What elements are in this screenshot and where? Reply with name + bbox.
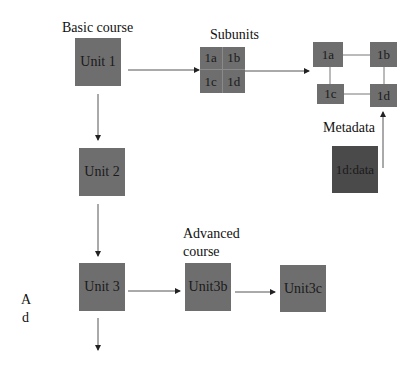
grid-1c-node[interactable]: 1c — [317, 84, 344, 104]
unit1-node[interactable]: Unit 1 — [75, 38, 121, 86]
grid-1d-node[interactable]: 1d — [370, 84, 397, 107]
unit3c-node[interactable]: Unit3c — [280, 265, 326, 312]
subunit-1d: 1d — [223, 70, 246, 93]
subunits-node[interactable]: 1a 1b 1c 1d — [200, 47, 245, 93]
subunits-label: Subunits — [210, 27, 259, 43]
advanced-course-label-line1: Advanced — [183, 226, 240, 242]
side-label-a: A — [21, 292, 31, 308]
subunit-1b: 1b — [223, 47, 246, 70]
advanced-course-label-line2: course — [183, 244, 220, 260]
metadata-1d-node[interactable]: 1d:data — [332, 146, 378, 193]
unit2-node[interactable]: Unit 2 — [79, 148, 125, 196]
metadata-label: Metadata — [323, 120, 375, 136]
grid-1b-node[interactable]: 1b — [370, 42, 397, 67]
side-label-d: d — [22, 310, 29, 326]
subunit-1a: 1a — [200, 47, 223, 70]
basic-course-label: Basic course — [62, 20, 133, 36]
unit3-node[interactable]: Unit 3 — [79, 263, 125, 311]
subunit-1c: 1c — [200, 70, 223, 93]
grid-1a-node[interactable]: 1a — [313, 42, 343, 67]
unit3b-node[interactable]: Unit3b — [185, 263, 231, 311]
